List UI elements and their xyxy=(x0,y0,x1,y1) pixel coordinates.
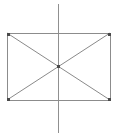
corner-marker-bottom-right xyxy=(108,98,111,101)
diagram-svg xyxy=(0,0,119,138)
corner-marker-bottom-left xyxy=(7,98,10,101)
corner-marker-top-left xyxy=(7,33,10,36)
diagram-canvas xyxy=(0,0,119,138)
corner-marker-top-right xyxy=(108,33,111,36)
canvas-background xyxy=(0,0,119,138)
center-intersection-marker xyxy=(57,65,60,68)
